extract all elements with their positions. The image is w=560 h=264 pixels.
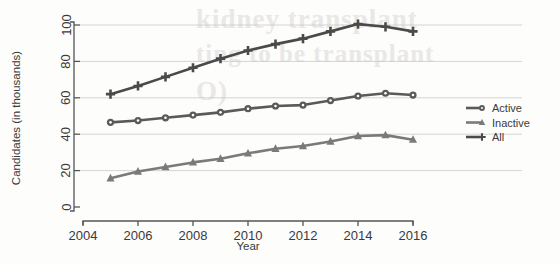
data-point-marker	[326, 27, 335, 36]
data-point-marker-hole	[109, 121, 112, 124]
y-tick-label: 80	[59, 54, 74, 68]
series-active	[107, 90, 417, 126]
data-point-marker-hole	[329, 99, 332, 102]
data-point-marker-hole	[302, 104, 305, 107]
series-line	[111, 135, 414, 178]
chart-figure: kidney transplant ting to be transplant …	[0, 0, 560, 264]
data-point-marker-hole	[357, 95, 360, 98]
x-tick-label: 2014	[344, 228, 373, 243]
data-point-marker	[216, 54, 225, 63]
data-point-marker-hole	[384, 92, 387, 95]
y-axis-title: Candidates (in thousands)	[10, 51, 22, 185]
data-point-marker	[243, 46, 252, 55]
x-axis-title: Year	[236, 240, 259, 252]
x-tick-label: 2008	[179, 228, 208, 243]
y-tick-label: 0	[59, 203, 74, 210]
data-point-marker	[353, 19, 362, 28]
data-point-marker	[381, 22, 390, 31]
series-inactive	[106, 131, 417, 182]
legend-label: Active	[492, 102, 522, 114]
chart-legend: ActiveInactiveAll	[466, 102, 530, 143]
legend-item-all[interactable]: All	[466, 131, 504, 143]
y-tick-label: 100	[59, 14, 74, 36]
legend-label: Inactive	[492, 117, 530, 129]
data-point-marker	[188, 63, 197, 72]
data-point-marker	[133, 81, 142, 90]
x-tick-label: 2004	[69, 228, 98, 243]
data-point-marker-hole	[412, 94, 415, 97]
data-point-marker	[408, 27, 417, 36]
data-point-marker	[271, 40, 280, 49]
series-all	[106, 19, 418, 98]
line-chart: 020406080100 200420062008201020122014201…	[0, 0, 560, 264]
data-point-marker-hole	[274, 105, 277, 108]
y-tick-label: 20	[59, 163, 74, 177]
data-point-marker-hole	[247, 107, 250, 110]
series-line	[111, 24, 414, 94]
y-tick-label: 40	[59, 127, 74, 141]
data-point-marker	[106, 90, 115, 99]
y-axis: 020406080100	[59, 14, 81, 211]
data-point-marker-hole	[481, 107, 483, 109]
legend-label: All	[492, 131, 504, 143]
data-point-marker	[161, 72, 170, 81]
y-tick-label: 60	[59, 91, 74, 105]
legend-item-active[interactable]: Active	[466, 102, 522, 114]
x-tick-label: 2012	[289, 228, 318, 243]
data-point-marker	[298, 34, 307, 43]
data-point-marker-hole	[219, 111, 222, 114]
data-point-marker-hole	[192, 114, 195, 117]
x-tick-label: 2006	[124, 228, 153, 243]
x-tick-label: 2016	[399, 228, 428, 243]
data-point-marker-hole	[164, 117, 167, 120]
data-series-group	[106, 19, 418, 181]
legend-item-inactive[interactable]: Inactive	[466, 117, 530, 129]
data-point-marker-hole	[137, 119, 140, 122]
